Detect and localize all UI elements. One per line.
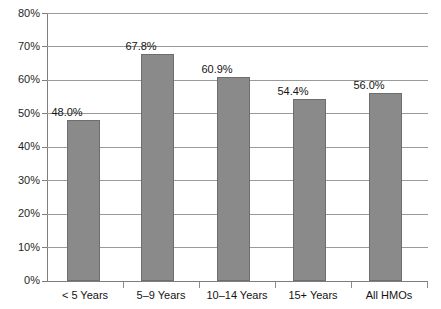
x-axis-tick-label-0: < 5 Years — [47, 289, 123, 301]
plot-area — [47, 13, 428, 281]
data-label-category-3: 54.4% — [263, 86, 323, 97]
bar-chart: 80% 70% 60% 50% 40% 30% 20% 10% 0% — [0, 0, 441, 309]
x-axis-tick-mark — [199, 282, 200, 288]
x-axis-tick-label-3: 15+ Years — [275, 289, 351, 301]
x-axis-tick-mark — [427, 282, 428, 288]
x-axis-tick-mark — [275, 282, 276, 288]
y-axis-tick-label: 70% — [0, 41, 40, 52]
x-axis-line — [47, 281, 428, 282]
gridline-70 — [47, 46, 428, 47]
gridline-80 — [47, 13, 428, 14]
x-axis-tick-label-1: 5–9 Years — [123, 289, 199, 301]
bar-category-1[interactable] — [141, 54, 174, 281]
y-axis-tick-label: 60% — [0, 74, 40, 85]
data-label-category-0: 48.0% — [37, 107, 97, 118]
data-label-category-2: 60.9% — [187, 64, 247, 75]
data-label-category-4: 56.0% — [339, 80, 399, 91]
x-axis-tick-label-4: All HMOs — [351, 289, 427, 301]
bar-category-4[interactable] — [369, 93, 402, 281]
bar-category-2[interactable] — [217, 77, 250, 281]
x-axis-tick-label-2: 10–14 Years — [199, 289, 275, 301]
y-axis-tick-label: 50% — [0, 108, 40, 119]
y-axis-tick-label: 30% — [0, 175, 40, 186]
y-axis-tick-label: 40% — [0, 141, 40, 152]
y-axis-tick-label: 80% — [0, 8, 40, 19]
bar-category-3[interactable] — [293, 99, 326, 281]
y-axis-tick-label: 10% — [0, 242, 40, 253]
x-axis-tick-mark — [123, 282, 124, 288]
data-label-category-1: 67.8% — [111, 41, 171, 52]
y-axis-tick-label: 20% — [0, 208, 40, 219]
y-axis-tick-label: 0% — [0, 275, 40, 286]
bar-category-0[interactable] — [67, 120, 100, 281]
x-axis-tick-mark — [351, 282, 352, 288]
